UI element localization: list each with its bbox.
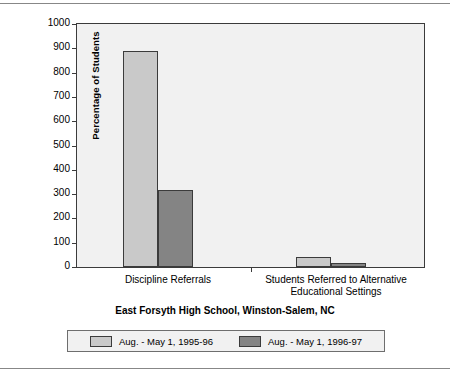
page-rule-top xyxy=(0,3,450,4)
bar-group-0-series-1 xyxy=(158,190,193,267)
y-axis-tick-label: 600 xyxy=(53,114,70,125)
y-axis-tick-mark xyxy=(72,170,77,171)
plot-area: Percentage of Students 01002003004005006… xyxy=(76,23,425,268)
y-axis-tick-mark xyxy=(72,146,77,147)
bar-group-1-series-0 xyxy=(296,257,331,267)
y-axis-title: Percentage of Students xyxy=(90,16,101,156)
y-axis-tick-mark xyxy=(72,121,77,122)
y-axis-tick-label: 800 xyxy=(53,66,70,77)
x-category-label-1: Students Referred to Alternative Educati… xyxy=(243,274,429,298)
y-axis-tick-label: 900 xyxy=(53,41,70,52)
y-axis-tick-mark xyxy=(72,97,77,98)
bar-group-0-series-0 xyxy=(123,51,158,267)
legend-item-1[interactable]: Aug. - May 1, 1996-97 xyxy=(239,336,362,347)
y-axis-tick-mark xyxy=(72,243,77,244)
y-axis-tick-mark xyxy=(72,267,77,268)
chart-legend: Aug. - May 1, 1995-96 Aug. - May 1, 1996… xyxy=(67,330,385,352)
y-axis-tick-label: 500 xyxy=(53,139,70,150)
legend-swatch-icon-series-1 xyxy=(239,336,261,347)
legend-label-series-1: Aug. - May 1, 1996-97 xyxy=(268,336,362,347)
y-axis-tick-label: 300 xyxy=(53,187,70,198)
y-axis-tick-label: 400 xyxy=(53,163,70,174)
legend-swatch-icon-series-0 xyxy=(90,336,112,347)
y-axis-tick-mark xyxy=(72,194,77,195)
y-axis-tick-label: 200 xyxy=(53,211,70,222)
x-category-label-0: Discipline Referrals xyxy=(78,274,258,286)
x-axis-separator-tick xyxy=(251,267,252,272)
legend-label-series-0: Aug. - May 1, 1995-96 xyxy=(119,336,213,347)
page-rule-bottom xyxy=(0,368,450,369)
chart-title: East Forsyth High School, Winston-Salem,… xyxy=(0,305,450,316)
bar-group-1-series-1 xyxy=(331,263,366,267)
y-axis-tick-label: 1000 xyxy=(48,17,70,28)
y-axis-tick-mark xyxy=(72,73,77,74)
y-axis-tick-mark xyxy=(72,48,77,49)
y-axis-tick-label: 100 xyxy=(53,236,70,247)
y-axis-tick-mark xyxy=(72,24,77,25)
legend-item-0[interactable]: Aug. - May 1, 1995-96 xyxy=(90,336,213,347)
y-axis-tick-mark xyxy=(72,218,77,219)
y-axis-tick-label: 700 xyxy=(53,90,70,101)
y-axis-tick-label: 0 xyxy=(64,260,70,271)
